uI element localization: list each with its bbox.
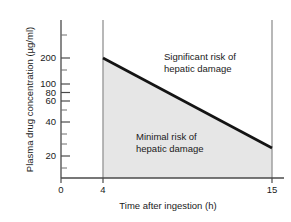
annotation-minimal-risk: Minimal risk of hepatic damage — [136, 131, 204, 155]
x-tick-label-0: 0 — [51, 185, 71, 195]
x-tick-label-15: 15 — [262, 185, 282, 195]
y-axis-title: Plasma drug concentration (µg/ml) — [24, 15, 35, 185]
annotation-minimal-risk-line1: Minimal risk of — [136, 131, 204, 143]
annotation-minimal-risk-line2: hepatic damage — [136, 143, 204, 155]
x-tick-label-4: 4 — [93, 185, 113, 195]
x-axis-ticks — [61, 178, 272, 183]
plot-canvas — [0, 0, 291, 222]
chart-figure: 200 100 80 60 40 20 0 4 15 Plasma drug c… — [0, 0, 291, 222]
annotation-significant-risk-line2: hepatic damage — [164, 63, 236, 75]
annotation-significant-risk: Significant risk of hepatic damage — [164, 51, 236, 75]
x-axis-title: Time after ingestion (h) — [58, 200, 278, 211]
minimal-risk-shaded-area — [103, 58, 272, 178]
y-axis-major-ticks — [61, 58, 70, 156]
annotation-significant-risk-line1: Significant risk of — [164, 51, 236, 63]
